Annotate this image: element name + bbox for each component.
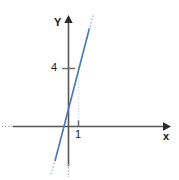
x-axis: [2, 121, 171, 131]
x-tick-label-1: 1: [75, 129, 81, 140]
line-chart-figure: Y x 4 1: [0, 0, 179, 180]
y-axis-arrow-icon: [64, 15, 72, 23]
x-axis-label: x: [163, 131, 169, 142]
y-tick-label-4: 4: [51, 62, 57, 73]
series-dotted-extension-lower: [50, 163, 54, 176]
y-axis: [62, 15, 75, 177]
series-solid-segment: [55, 28, 90, 161]
series-dotted-extension-upper: [89, 14, 93, 30]
y-axis-label: Y: [54, 17, 61, 28]
chart-canvas: [0, 0, 179, 180]
data-series-line: [50, 14, 93, 176]
